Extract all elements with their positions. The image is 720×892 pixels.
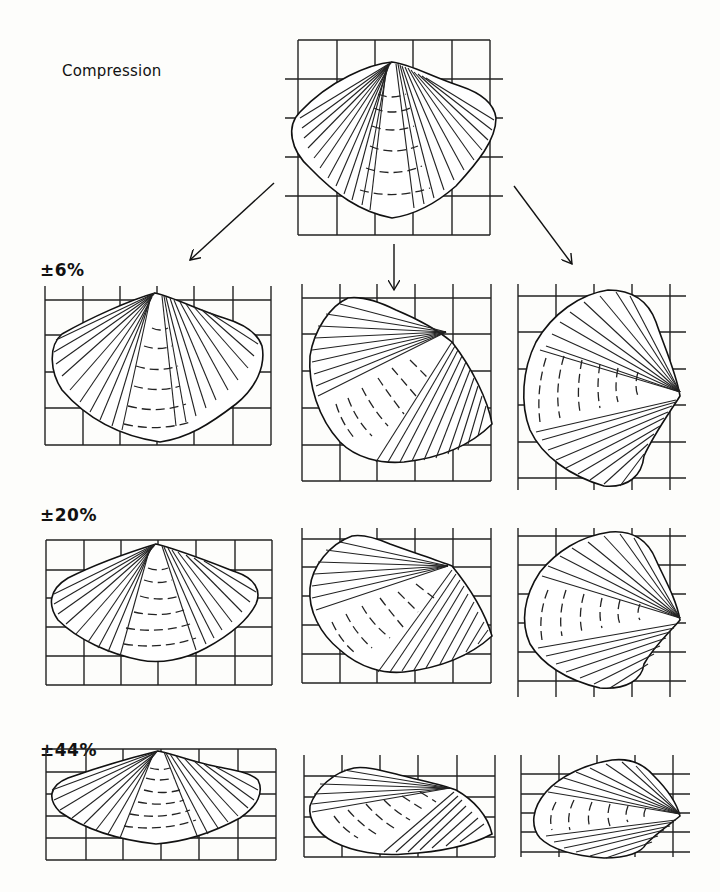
panel-20-symmetric <box>46 540 272 685</box>
panel-20-lateral <box>518 528 686 697</box>
panel-44-oblique <box>304 755 495 857</box>
panel-20-oblique <box>302 528 492 683</box>
panel-6-lateral <box>518 284 686 490</box>
panel-44-lateral <box>521 755 690 858</box>
panel-6-symmetric <box>45 286 271 445</box>
panel-44-symmetric <box>46 749 276 860</box>
original-shell-panel <box>285 40 503 235</box>
deformation-figure <box>0 0 720 892</box>
arrow-to-lateral <box>514 186 572 264</box>
panel-6-oblique <box>302 284 492 481</box>
arrow-to-symmetric <box>190 183 274 260</box>
